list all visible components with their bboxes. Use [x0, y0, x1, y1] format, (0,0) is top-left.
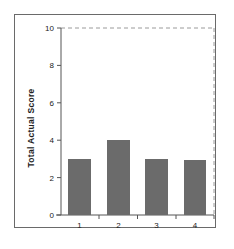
x-tick-labels: 1 2 3 4	[77, 221, 198, 230]
x-ticks	[99, 215, 214, 219]
y-tick-labels: 0 2 4 6 8 10	[45, 24, 54, 220]
x-tick-label: 1	[77, 221, 82, 230]
bar-2	[107, 140, 130, 215]
x-tick-label: 3	[154, 221, 159, 230]
x-tick-label: 2	[116, 221, 121, 230]
y-tick-label: 4	[50, 136, 55, 145]
bar-chart: 0 2 4 6 8 10 1 2 3 4 Total Actual Score	[0, 0, 234, 249]
x-tick-label: 4	[193, 221, 198, 230]
bar-4	[184, 160, 206, 215]
y-tick-label: 10	[45, 24, 54, 33]
y-ticks	[57, 28, 61, 215]
y-tick-label: 0	[50, 211, 55, 220]
y-tick-label: 6	[50, 99, 55, 108]
y-axis-title: Total Actual Score	[26, 88, 36, 167]
y-tick-label: 8	[50, 61, 55, 70]
bar-3	[145, 159, 168, 215]
bar-1	[68, 159, 91, 215]
bars	[68, 140, 206, 215]
y-tick-label: 2	[50, 174, 55, 183]
